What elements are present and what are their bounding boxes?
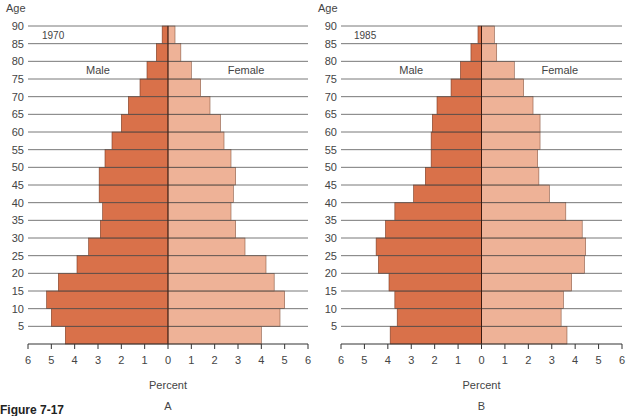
x-tick-label: 5 (361, 354, 367, 366)
female-bar (168, 167, 236, 185)
male-bar (58, 273, 168, 291)
x-tick-label: 1 (502, 354, 508, 366)
age-tick-label: 10 (12, 303, 24, 315)
age-tick-label: 45 (12, 179, 24, 191)
x-tick-label: 0 (165, 354, 171, 366)
x-tick-label: 4 (572, 354, 578, 366)
age-tick-label: 65 (325, 108, 337, 120)
female-bar (482, 220, 583, 238)
female-bar (168, 79, 201, 97)
age-tick-label: 10 (325, 303, 337, 315)
pyramid-panel-a: Age5101520253035404550556065707580859065… (0, 0, 314, 416)
male-bar (432, 114, 481, 132)
male-bar (147, 61, 168, 79)
x-tick-label: 3 (549, 354, 555, 366)
male-bar (128, 97, 168, 115)
age-axis-label: Age (6, 2, 26, 14)
male-bar (451, 79, 481, 97)
male-bar (414, 185, 482, 203)
x-tick-label: 2 (525, 354, 531, 366)
female-bar (482, 238, 586, 256)
female-bar (168, 203, 231, 221)
age-tick-label: 45 (325, 179, 337, 191)
male-bar (390, 326, 481, 344)
x-tick-label: 1 (455, 354, 461, 366)
age-tick-label: 20 (12, 267, 24, 279)
x-tick-label: 6 (619, 354, 625, 366)
female-bar (482, 256, 585, 274)
pyramid-panel-b: Age5101520253035404550556065707580859065… (312, 0, 626, 416)
male-bar (460, 61, 481, 79)
male-bar (89, 238, 168, 256)
age-tick-label: 55 (325, 144, 337, 156)
age-tick-label: 85 (325, 38, 337, 50)
male-bar (478, 26, 482, 44)
female-bar (168, 256, 266, 274)
female-bar (482, 132, 541, 150)
female-bar (168, 97, 210, 115)
age-tick-label: 70 (12, 91, 24, 103)
age-tick-label: 50 (12, 161, 24, 173)
age-tick-label: 65 (12, 108, 24, 120)
x-tick-label: 2 (118, 354, 124, 366)
age-tick-label: 85 (12, 38, 24, 50)
age-tick-label: 35 (325, 214, 337, 226)
x-axis-label: Percent (463, 379, 501, 391)
age-tick-label: 60 (12, 126, 24, 138)
x-tick-label: 6 (338, 354, 344, 366)
age-tick-label: 50 (325, 161, 337, 173)
age-tick-label: 15 (325, 285, 337, 297)
male-bar (425, 167, 481, 185)
year-label: 1985 (354, 30, 377, 41)
age-tick-label: 70 (325, 91, 337, 103)
male-bar (162, 26, 168, 44)
x-tick-label: 3 (408, 354, 414, 366)
female-bar (482, 309, 562, 327)
x-tick-label: 2 (212, 354, 218, 366)
male-label: Male (399, 64, 423, 76)
male-bar (156, 44, 168, 62)
age-tick-label: 20 (325, 267, 337, 279)
age-tick-label: 40 (325, 197, 337, 209)
female-bar (168, 273, 274, 291)
male-bar (385, 220, 481, 238)
age-tick-label: 30 (325, 232, 337, 244)
male-bar (395, 291, 482, 309)
x-tick-label: 4 (385, 354, 391, 366)
age-tick-label: 40 (12, 197, 24, 209)
age-tick-label: 60 (325, 126, 337, 138)
male-bar (77, 256, 168, 274)
age-tick-label: 80 (12, 55, 24, 67)
male-bar (65, 326, 168, 344)
age-tick-label: 30 (12, 232, 24, 244)
figure-caption: Figure 7-17 (0, 404, 64, 416)
male-bar (47, 291, 168, 309)
female-bar (168, 26, 175, 44)
male-bar (397, 309, 481, 327)
male-bar (471, 44, 482, 62)
x-tick-label: 5 (48, 354, 54, 366)
male-bar (378, 256, 481, 274)
female-bar (168, 220, 236, 238)
x-tick-label: 3 (95, 354, 101, 366)
female-bar (482, 61, 515, 79)
x-tick-label: 5 (282, 354, 288, 366)
x-tick-label: 5 (596, 354, 602, 366)
female-bar (168, 132, 224, 150)
age-tick-label: 90 (325, 20, 337, 32)
age-tick-label: 25 (325, 250, 337, 262)
female-bar (482, 97, 534, 115)
female-bar (168, 61, 191, 79)
female-bar (482, 79, 524, 97)
male-bar (376, 238, 481, 256)
female-bar (482, 291, 564, 309)
male-bar (395, 203, 482, 221)
age-tick-label: 5 (18, 320, 24, 332)
age-tick-label: 25 (12, 250, 24, 262)
pyramid-chart-b: Age5101520253035404550556065707580859065… (312, 0, 628, 416)
female-bar (168, 44, 181, 62)
x-tick-label: 1 (188, 354, 194, 366)
female-bar (482, 150, 538, 168)
panel-label: B (478, 400, 485, 412)
male-bar (121, 114, 168, 132)
